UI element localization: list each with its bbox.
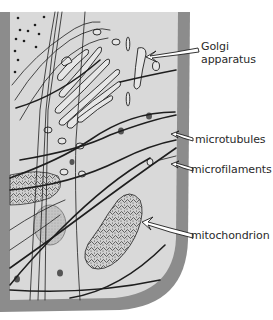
label-microfilaments: microfilaments [191, 163, 272, 176]
label-microtubules: microtubules [195, 133, 265, 146]
label-golgi-line1: Golgi [201, 40, 256, 53]
label-golgi-line2: apparatus [201, 53, 256, 66]
label-mitochondrion: mitochondrion [191, 229, 270, 242]
label-golgi-apparatus: Golgi apparatus [201, 40, 256, 66]
